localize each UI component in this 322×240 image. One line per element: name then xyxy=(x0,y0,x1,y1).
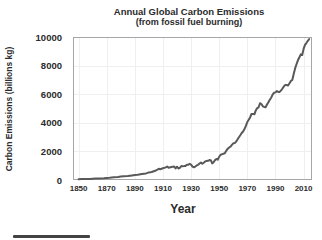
y-tick-label: 0 xyxy=(18,175,62,186)
y-tick-label: 6000 xyxy=(18,89,62,100)
cropped-ui-fragment xyxy=(13,235,90,238)
x-tick-label: 2010 xyxy=(287,184,321,193)
x-axis-label: Year xyxy=(58,202,308,216)
chart-canvas: Annual Global Carbon Emissions (from fos… xyxy=(0,0,322,240)
y-tick-label: 4000 xyxy=(18,117,62,128)
y-tick-label: 8000 xyxy=(18,60,62,71)
emissions-line xyxy=(79,39,310,179)
y-tick-label: 10000 xyxy=(18,32,62,43)
y-tick-label: 2000 xyxy=(18,146,62,157)
